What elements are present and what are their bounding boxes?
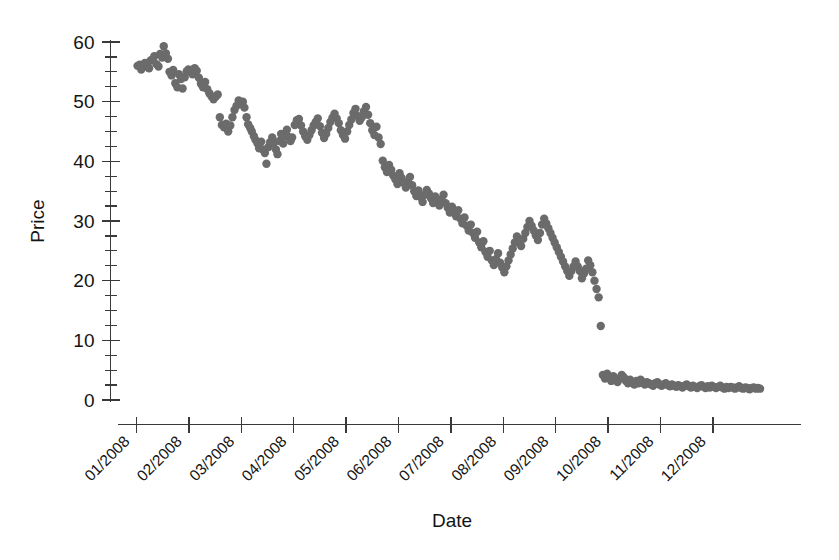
data-point: [467, 220, 475, 228]
x-tick-label: 06/2008: [343, 433, 395, 485]
data-point: [597, 322, 605, 330]
plot-svg: 0102030405060 01/200802/200803/200804/20…: [0, 0, 839, 560]
data-point: [216, 113, 224, 121]
data-point: [594, 293, 602, 301]
data-point: [406, 173, 414, 181]
y-tick-label: 20: [73, 270, 94, 291]
data-point: [586, 261, 594, 269]
x-tick-label: 03/2008: [186, 433, 238, 485]
data-point: [262, 160, 270, 168]
data-point: [479, 237, 487, 245]
data-point: [536, 229, 544, 237]
y-axis: 0102030405060: [73, 32, 119, 411]
data-point: [240, 103, 248, 111]
data-point: [341, 134, 349, 142]
data-point: [351, 105, 359, 113]
data-point: [376, 140, 384, 148]
data-point: [228, 113, 236, 121]
data-point: [756, 384, 764, 392]
data-points-layer: [133, 42, 764, 393]
data-point: [494, 249, 502, 257]
data-point: [372, 123, 380, 131]
y-tick-label: 60: [73, 32, 94, 53]
data-point: [214, 90, 222, 98]
data-point: [154, 62, 162, 70]
data-point: [242, 113, 250, 121]
x-tick-label: 12/2008: [657, 433, 709, 485]
x-tick-label: 05/2008: [291, 433, 343, 485]
data-point: [454, 206, 462, 214]
x-tick-label: 11/2008: [606, 433, 657, 484]
x-tick-label: 09/2008: [500, 433, 552, 485]
x-tick-label: 04/2008: [238, 433, 290, 485]
data-point: [418, 198, 426, 206]
x-tick-label: 01/2008: [81, 433, 133, 485]
data-point: [485, 247, 493, 255]
data-point: [279, 139, 287, 147]
data-point: [588, 268, 596, 276]
y-axis-title: Price: [27, 199, 48, 242]
data-point: [257, 137, 265, 145]
data-point: [439, 191, 447, 199]
x-tick-label: 07/2008: [395, 433, 447, 485]
data-point: [473, 228, 481, 236]
data-point: [145, 64, 153, 72]
x-axis: 01/200802/200803/200804/200805/200806/20…: [81, 417, 801, 485]
data-point: [590, 276, 598, 284]
x-tick-label: 08/2008: [448, 433, 500, 485]
x-tick-label: 10/2008: [553, 433, 605, 485]
data-point: [193, 66, 201, 74]
data-point: [362, 103, 370, 111]
data-point: [460, 213, 468, 221]
y-tick-label: 10: [73, 330, 94, 351]
data-point: [201, 78, 209, 86]
data-point: [273, 150, 281, 158]
data-point: [226, 121, 234, 129]
scatter-chart: 0102030405060 01/200802/200803/200804/20…: [0, 0, 839, 560]
y-tick-label: 50: [73, 91, 94, 112]
data-point: [283, 126, 291, 134]
y-tick-label: 40: [73, 151, 94, 172]
data-point: [160, 42, 168, 50]
data-point: [314, 114, 322, 122]
data-point: [534, 236, 542, 244]
y-tick-label: 30: [73, 211, 94, 232]
x-axis-title: Date: [432, 510, 472, 531]
data-point: [335, 119, 343, 127]
data-point: [178, 84, 186, 92]
data-point: [364, 111, 372, 119]
data-point: [288, 133, 296, 141]
data-point: [517, 242, 525, 250]
data-point: [164, 55, 172, 63]
data-point: [592, 285, 600, 293]
x-tick-label: 02/2008: [133, 433, 185, 485]
y-tick-label: 0: [84, 390, 95, 411]
